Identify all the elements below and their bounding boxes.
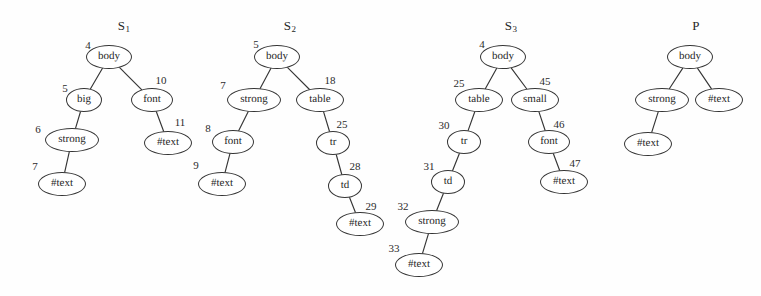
tree-node-hashtext[interactable]: #text xyxy=(144,131,192,155)
tree-title-text: S xyxy=(505,18,512,33)
tree-title-s1: S1 xyxy=(118,18,131,34)
tree-node-label: font xyxy=(143,94,161,106)
tree-node-label: #text xyxy=(708,94,730,106)
tree-edge xyxy=(437,194,444,211)
tree-edge xyxy=(65,152,70,172)
tree-edge xyxy=(670,68,683,88)
tree-node-label: td xyxy=(341,180,350,192)
dom-tree-figure: S1body4big5font10strong6#text11#text7S2b… xyxy=(0,0,761,296)
tree-title-p: P xyxy=(692,18,699,34)
tree-node-label: strong xyxy=(418,216,446,228)
tree-node-tr[interactable]: tr xyxy=(447,130,481,154)
tree-node-table[interactable]: table xyxy=(455,88,503,112)
tree-node-hashtext[interactable]: #text xyxy=(198,172,246,196)
tree-node-body[interactable]: body xyxy=(480,45,526,69)
tree-edge xyxy=(288,68,310,90)
tree-node-hashtext[interactable]: #text xyxy=(624,132,672,156)
tree-node-tr[interactable]: tr xyxy=(316,131,350,155)
tree-edge xyxy=(156,112,163,131)
tree-edge xyxy=(453,154,460,171)
tree-node-id-label: 18 xyxy=(325,74,336,86)
tree-node-hashtext[interactable]: #text xyxy=(336,212,384,236)
tree-edge xyxy=(350,198,356,213)
tree-edge xyxy=(652,112,658,132)
tree-title-subscript: 1 xyxy=(126,24,131,34)
tree-edge xyxy=(225,154,230,172)
tree-node-id-label: 11 xyxy=(175,116,186,128)
tree-node-label: body xyxy=(266,51,288,63)
tree-edge xyxy=(698,68,712,88)
tree-node-big[interactable]: big xyxy=(66,88,102,112)
tree-node-td[interactable]: td xyxy=(328,174,362,198)
tree-node-label: td xyxy=(444,176,453,188)
tree-node-id-label: 10 xyxy=(156,74,167,86)
tree-node-label: big xyxy=(77,94,91,106)
tree-node-hashtext[interactable]: #text xyxy=(38,172,86,196)
tree-node-id-label: 5 xyxy=(62,82,68,94)
tree-node-id-label: 28 xyxy=(350,160,361,172)
tree-edge xyxy=(511,68,526,89)
tree-node-strong[interactable]: strong xyxy=(635,88,689,112)
tree-node-label: strong xyxy=(648,94,676,106)
tree-title-text: S xyxy=(284,18,291,33)
tree-edge xyxy=(239,112,248,131)
tree-node-label: body xyxy=(679,51,701,63)
tree-node-id-label: 5 xyxy=(253,38,259,50)
tree-node-id-label: 31 xyxy=(424,160,435,172)
tree-edge xyxy=(553,154,559,170)
tree-node-id-label: 8 xyxy=(205,122,211,134)
tree-edge xyxy=(91,68,103,88)
tree-node-hashtext[interactable]: #text xyxy=(395,253,443,277)
tree-node-label: body xyxy=(98,51,120,63)
tree-title-text: S xyxy=(118,18,125,33)
tree-node-body[interactable]: body xyxy=(86,45,132,69)
tree-title-s3: S3 xyxy=(505,18,518,34)
tree-node-id-label: 45 xyxy=(540,75,551,87)
tree-node-id-label: 32 xyxy=(398,200,409,212)
tree-node-body[interactable]: body xyxy=(667,45,713,69)
tree-node-id-label: 33 xyxy=(389,242,400,254)
tree-node-strong[interactable]: strong xyxy=(405,210,459,234)
tree-node-hashtext[interactable]: #text xyxy=(540,170,588,194)
tree-node-label: #text xyxy=(51,178,73,190)
tree-node-label: small xyxy=(523,94,547,106)
tree-node-id-label: 7 xyxy=(220,79,226,91)
tree-edge xyxy=(120,68,142,90)
tree-edge xyxy=(260,69,271,89)
tree-node-label: #text xyxy=(157,137,179,149)
tree-title-subscript: 3 xyxy=(513,24,518,34)
tree-edge xyxy=(423,234,429,253)
tree-node-label: table xyxy=(309,94,330,106)
tree-edge xyxy=(336,155,341,174)
tree-node-id-label: 4 xyxy=(85,39,91,51)
tree-edge xyxy=(76,112,81,128)
tree-node-id-label: 7 xyxy=(32,160,38,172)
tree-node-id-label: 30 xyxy=(439,119,450,131)
tree-node-font[interactable]: font xyxy=(131,88,173,112)
tree-node-id-label: 25 xyxy=(337,118,348,130)
tree-node-label: #text xyxy=(553,176,575,188)
tree-node-label: tr xyxy=(330,137,337,149)
tree-node-font[interactable]: font xyxy=(528,130,570,154)
tree-node-small[interactable]: small xyxy=(511,88,559,112)
tree-node-strong[interactable]: strong xyxy=(227,88,281,112)
tree-node-label: font xyxy=(224,136,242,148)
tree-node-id-label: 4 xyxy=(479,38,485,50)
tree-node-label: strong xyxy=(240,94,268,106)
tree-node-label: #text xyxy=(408,259,430,271)
tree-edge xyxy=(539,112,545,130)
tree-node-id-label: 29 xyxy=(366,200,377,212)
tree-node-table[interactable]: table xyxy=(296,88,344,112)
tree-node-td[interactable]: td xyxy=(431,170,465,194)
tree-node-id-label: 47 xyxy=(570,157,581,169)
tree-node-label: table xyxy=(468,94,489,106)
tree-node-strong[interactable]: strong xyxy=(45,128,99,152)
tree-node-label: strong xyxy=(58,134,86,146)
tree-node-label: #text xyxy=(637,138,659,150)
tree-node-hashtext[interactable]: #text xyxy=(695,88,743,112)
tree-node-body[interactable]: body xyxy=(254,45,300,69)
tree-edge xyxy=(468,112,475,131)
tree-node-label: tr xyxy=(461,136,468,148)
tree-node-font[interactable]: font xyxy=(212,130,254,154)
tree-title-subscript: 2 xyxy=(292,24,297,34)
